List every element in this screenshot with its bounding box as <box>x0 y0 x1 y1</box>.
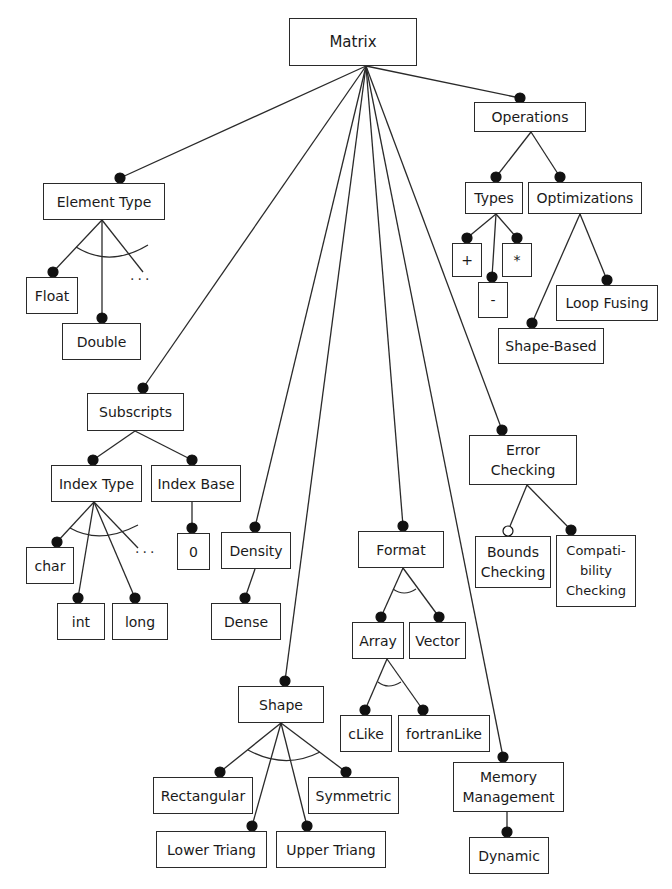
mandatory-marker-icon <box>302 821 312 831</box>
connector-line <box>285 66 366 681</box>
connector-line <box>143 66 366 388</box>
connector-line <box>94 502 135 598</box>
feature-node-matrix: Matrix <box>289 18 417 66</box>
mandatory-marker-icon <box>97 313 107 323</box>
connector-line <box>366 66 520 98</box>
more-alternatives-ellipsis: ... <box>135 540 157 556</box>
feature-node-element-type: Element Type <box>43 183 165 220</box>
mandatory-marker-icon <box>240 593 250 603</box>
feature-node-index-type: Index Type <box>51 465 142 502</box>
feature-node-lower-triang: Lower Triang <box>156 831 267 868</box>
mandatory-marker-icon <box>115 173 125 183</box>
feature-node-operations: Operations <box>474 102 586 132</box>
feature-node-symmetric: Symmetric <box>308 777 399 814</box>
feature-node-format: Format <box>358 531 444 568</box>
mandatory-marker-icon <box>130 593 140 603</box>
feature-node-types: Types <box>465 182 523 214</box>
mandatory-marker-icon <box>498 752 508 762</box>
feature-node-times: * <box>502 243 532 277</box>
mandatory-marker-icon <box>418 705 428 715</box>
mandatory-marker-icon <box>527 318 537 328</box>
connector-line <box>580 214 607 280</box>
mandatory-marker-icon <box>566 525 576 535</box>
connector-line <box>220 723 281 772</box>
array-alternative-arc <box>378 682 401 686</box>
feature-node-shape-based: Shape-Based <box>498 328 604 364</box>
connector-line <box>492 214 496 277</box>
connector-line <box>281 723 346 772</box>
feature-node-density: Density <box>221 532 291 569</box>
connector-line <box>387 659 423 710</box>
mandatory-marker-icon <box>341 767 351 777</box>
mandatory-marker-icon <box>52 537 62 547</box>
mandatory-marker-icon <box>280 676 290 686</box>
feature-node-minus: - <box>478 282 508 318</box>
mandatory-marker-icon <box>73 593 83 603</box>
mandatory-marker-icon <box>487 272 497 282</box>
connector-line <box>53 220 102 272</box>
feature-node-shape: Shape <box>238 686 324 723</box>
feature-node-char: char <box>26 547 74 584</box>
feature-node-zero: 0 <box>177 533 210 570</box>
mandatory-marker-icon <box>187 455 197 465</box>
mandatory-marker-icon <box>497 425 507 435</box>
more-alternatives-ellipsis: ... <box>130 267 152 283</box>
mandatory-marker-icon <box>48 267 58 277</box>
mandatory-marker-icon <box>250 522 260 532</box>
connector-line <box>255 66 366 527</box>
shape-alternative-arc <box>248 750 320 761</box>
feature-node-vector: Vector <box>409 622 466 659</box>
mandatory-marker-icon <box>512 233 522 243</box>
feature-node-float: Float <box>26 277 78 314</box>
mandatory-marker-icon <box>491 172 501 182</box>
connector-line <box>94 502 138 548</box>
connector-line <box>135 431 192 460</box>
mandatory-marker-icon <box>138 383 148 393</box>
connector-line <box>102 220 143 272</box>
feature-node-subscripts: Subscripts <box>87 393 184 431</box>
feature-node-fortranlike: fortranLike <box>398 715 490 752</box>
connector-line <box>93 431 135 460</box>
feature-node-dense: Dense <box>211 603 281 640</box>
feature-node-long: long <box>112 603 168 640</box>
feature-node-error-checking: Error Checking <box>469 435 577 485</box>
feature-node-array: Array <box>352 622 404 659</box>
connector-line <box>252 723 281 826</box>
feature-node-clike: cLike <box>340 715 392 752</box>
mandatory-marker-icon <box>434 612 444 622</box>
connector-line <box>531 132 560 177</box>
mandatory-marker-icon <box>462 233 472 243</box>
mandatory-marker-icon <box>502 827 512 837</box>
mandatory-marker-icon <box>398 521 408 531</box>
feature-node-bounds-checking: Bounds Checking <box>475 536 551 588</box>
mandatory-marker-icon <box>360 705 370 715</box>
mandatory-marker-icon <box>602 275 612 285</box>
feature-node-upper-triang: Upper Triang <box>276 831 386 868</box>
feature-node-compat-checking: Compati- bility Checking <box>556 535 636 607</box>
format-alternative-arc <box>393 589 416 593</box>
mandatory-marker-icon <box>247 821 257 831</box>
feature-node-memory-mgmt: Memory Management <box>453 762 564 812</box>
connector-line <box>527 485 571 530</box>
feature-node-index-base: Index Base <box>151 465 241 502</box>
feature-node-loop-fusing: Loop Fusing <box>556 285 658 321</box>
connector-line <box>365 659 387 710</box>
connector-line <box>508 485 527 531</box>
element-type-alternative-arc <box>76 245 148 257</box>
connector-line <box>281 723 307 826</box>
mandatory-marker-icon <box>187 523 197 533</box>
feature-node-dynamic: Dynamic <box>469 837 549 874</box>
mandatory-marker-icon <box>215 767 225 777</box>
connector-line <box>120 66 366 178</box>
optional-marker-icon <box>503 526 513 536</box>
feature-node-double: Double <box>62 323 141 360</box>
mandatory-marker-icon <box>376 612 386 622</box>
connector-line <box>496 132 531 177</box>
feature-node-int: int <box>57 603 105 640</box>
feature-diagram: ......MatrixOperationsTypesOptimizations… <box>0 0 672 889</box>
mandatory-marker-icon <box>555 172 565 182</box>
feature-node-rectangular: Rectangular <box>153 777 253 814</box>
feature-node-optimizations: Optimizations <box>528 182 642 214</box>
connector-line <box>366 66 403 526</box>
feature-node-plus: + <box>452 243 482 277</box>
